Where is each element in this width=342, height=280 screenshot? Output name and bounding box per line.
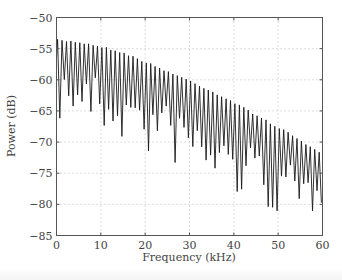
x-tick-label: 50 <box>271 239 285 252</box>
x-tick-label: 40 <box>227 239 241 252</box>
y-tick-label: −55 <box>29 43 52 56</box>
x-tick-label: 60 <box>316 239 330 252</box>
x-axis-label: Frequency (kHz) <box>142 251 236 264</box>
y-tick-label: −50 <box>29 12 52 25</box>
power-spectrum-chart: −50−55−60−65−70−75−80−85 0102030405060 F… <box>0 0 342 280</box>
y-tick-label: −70 <box>29 136 52 149</box>
bottom-band <box>0 268 342 280</box>
power-spectrum-line <box>57 39 322 211</box>
y-tick-label: −65 <box>29 105 52 118</box>
x-tick-label: 20 <box>138 239 152 252</box>
x-tick-label: 0 <box>53 239 60 252</box>
x-tick-label: 30 <box>183 239 197 252</box>
y-axis-label: Power (dB) <box>5 95 18 157</box>
y-tick-label: −60 <box>29 74 52 87</box>
x-tick-label: 10 <box>94 239 108 252</box>
y-tick-label: −75 <box>29 167 52 180</box>
y-tick-label: −80 <box>29 198 52 211</box>
y-tick-label: −85 <box>29 230 52 243</box>
grid-lines <box>57 18 323 236</box>
